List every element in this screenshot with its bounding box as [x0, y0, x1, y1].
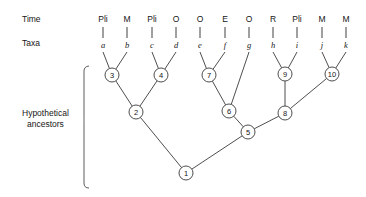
node-number-2: 2	[134, 108, 138, 117]
taxon-label-c: c	[150, 40, 154, 50]
branch-node-4-to-node-2	[140, 81, 157, 106]
branch-taxon-e-to-node-7	[200, 52, 206, 68]
branch-taxon-k-to-node-10	[336, 52, 346, 68]
taxon-label-b: b	[125, 40, 129, 50]
branch-node-8-to-node-5	[254, 116, 279, 129]
branch-node-10-to-node-8	[290, 78, 326, 108]
branch-node-2-to-node-1	[140, 117, 181, 167]
branch-taxon-g-to-node-6	[231, 52, 249, 104]
ancestor-node-2: 2	[129, 105, 143, 119]
branch-node-6-to-node-5	[234, 116, 244, 127]
ancestor-node-8: 8	[278, 106, 292, 120]
cladogram-svg: 12345678910 Time Taxa Hypothetical ances…	[0, 0, 366, 197]
node-number-9: 9	[283, 70, 287, 79]
node-number-10: 10	[328, 70, 336, 79]
branch-taxon-c-to-node-4	[152, 52, 158, 68]
taxon-label-a: a	[101, 40, 105, 50]
branch-taxon-j-to-node-10	[322, 52, 329, 68]
bracket-path	[84, 66, 89, 188]
era-label-i: Pli	[292, 14, 302, 24]
cladogram-figure: 12345678910 Time Taxa Hypothetical ances…	[0, 0, 366, 197]
ancestor-nodes-group: 12345678910	[105, 67, 339, 180]
branch-node-3-to-node-2	[116, 81, 132, 106]
node-number-5: 5	[246, 128, 250, 137]
era-label-g: O	[246, 14, 253, 24]
ancestor-node-1: 1	[179, 166, 193, 180]
taxon-label-g: g	[247, 40, 251, 50]
ancestor-node-6: 6	[222, 104, 236, 118]
text-labels-group: Time Taxa Hypothetical ancestors PliaMbP…	[22, 14, 350, 129]
branch-taxon-h-to-node-9	[273, 52, 282, 68]
era-label-k: M	[342, 14, 349, 24]
era-label-j: M	[318, 14, 325, 24]
branch-taxon-a-to-node-3	[103, 52, 109, 68]
branch-node-5-to-node-1	[192, 136, 242, 169]
era-label-h: R	[270, 14, 276, 24]
branch-taxon-d-to-node-4	[165, 52, 176, 69]
node-number-1: 1	[184, 169, 188, 178]
ancestor-node-4: 4	[154, 68, 168, 82]
ancestor-node-3: 3	[105, 68, 119, 82]
row-label-time: Time	[22, 14, 41, 24]
era-label-d: O	[173, 14, 180, 24]
branch-taxon-b-to-node-3	[116, 52, 127, 69]
branch-node-7-to-node-6	[212, 81, 225, 105]
ancestor-node-10: 10	[325, 67, 339, 81]
taxon-label-f: f	[224, 40, 228, 50]
bracket-label-line-2: ancestors	[27, 119, 64, 129]
tip-ticks-group	[103, 27, 346, 38]
bracket-label-line-1: Hypothetical	[22, 108, 69, 118]
row-label-taxa: Taxa	[22, 38, 40, 48]
ancestor-node-9: 9	[278, 67, 292, 81]
node-number-3: 3	[110, 71, 114, 80]
taxon-label-j: j	[320, 40, 324, 50]
era-label-a: Pli	[98, 14, 108, 24]
ancestor-node-7: 7	[202, 68, 216, 82]
taxon-label-i: i	[296, 40, 299, 50]
node-number-6: 6	[227, 107, 231, 116]
taxon-label-k: k	[344, 40, 348, 50]
era-label-e: O	[197, 14, 204, 24]
taxon-label-d: d	[174, 40, 179, 50]
node-number-4: 4	[159, 71, 163, 80]
era-label-f: E	[222, 14, 228, 24]
node-number-7: 7	[207, 71, 211, 80]
taxon-label-e: e	[198, 40, 202, 50]
node-number-8: 8	[283, 109, 287, 118]
era-label-b: M	[123, 14, 130, 24]
branch-taxon-f-to-node-7	[213, 52, 225, 69]
era-label-c: Pli	[147, 14, 157, 24]
taxon-label-h: h	[271, 40, 275, 50]
ancestor-node-5: 5	[241, 125, 255, 139]
hypothetical-ancestors-bracket	[84, 66, 89, 188]
branch-taxon-i-to-node-9	[288, 52, 297, 68]
